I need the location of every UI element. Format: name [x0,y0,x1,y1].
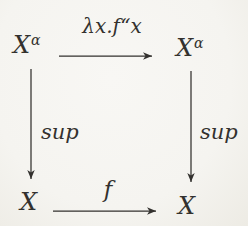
node-base: X [178,192,195,220]
node-base: X [20,188,37,216]
node-superscript: α [31,32,40,48]
right-arrow-label: sup [200,122,238,143]
node-top-right: Xα [176,36,204,60]
node-base: X [13,31,30,59]
top-arrow-label: λx.f“x [58,16,166,36]
node-superscript: α [194,35,203,51]
commutative-diagram: Xα Xα X X λx.f“x f sup sup [0,0,248,226]
node-top-left: Xα [13,33,41,57]
node-bottom-left: X [20,190,37,214]
left-arrow-label: sup [41,122,79,143]
bottom-arrow-label: f [52,178,164,201]
node-base: X [176,34,193,62]
node-bottom-right: X [178,194,195,218]
